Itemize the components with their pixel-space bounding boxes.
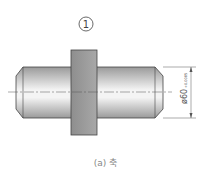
diameter-dimension: ø60+0.0085 xyxy=(163,67,196,118)
svg-text:ø60+0.0085: ø60+0.0085 xyxy=(180,73,189,104)
svg-text:1: 1 xyxy=(83,19,89,30)
collar xyxy=(71,50,97,135)
figure-caption: (a) 축 xyxy=(0,156,211,169)
part-number-callout: 1 xyxy=(79,17,93,31)
shaft-drawing: 1 ø60+0.0085 xyxy=(0,0,211,176)
